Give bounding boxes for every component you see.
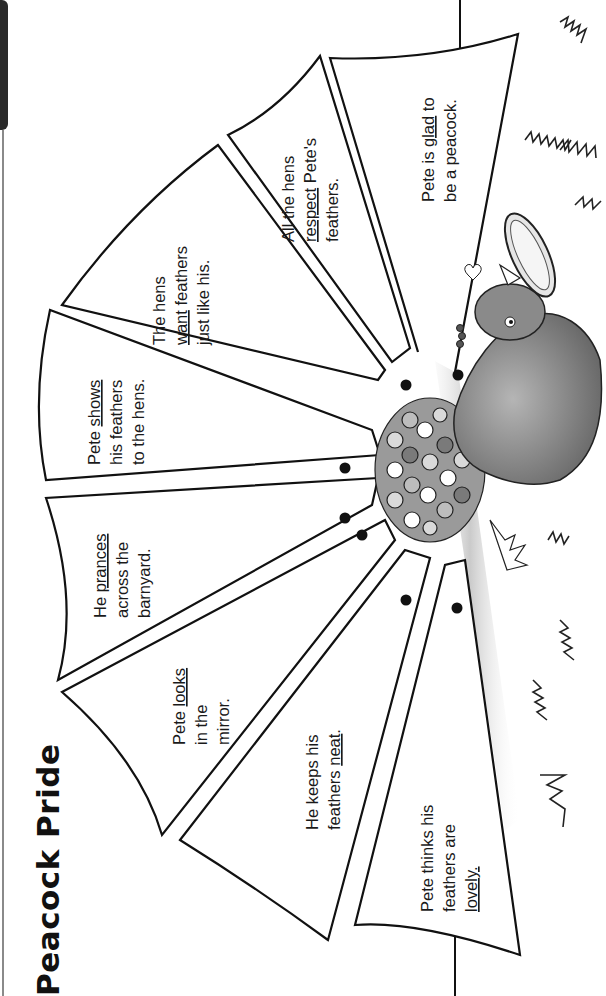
svg-text:lovely.: lovely. <box>462 866 480 912</box>
svg-text:feathers.: feathers. <box>323 178 341 242</box>
svg-text:just like his.: just like his. <box>194 260 212 346</box>
worksheet-page: Peacock Pride <box>0 0 606 996</box>
grass-tuft-2 <box>525 132 571 150</box>
svg-text:across the: across the <box>113 542 131 618</box>
svg-text:He keeps his: He keeps his <box>303 735 321 830</box>
svg-text:feathers are: feathers are <box>440 824 458 912</box>
svg-text:feathers neat.: feathers neat. <box>325 729 343 830</box>
grass-tuft-1 <box>560 17 586 43</box>
dot-5 <box>357 530 368 541</box>
svg-text:mirror.: mirror. <box>214 698 232 745</box>
peacock-body <box>454 314 602 485</box>
dot-6 <box>401 595 412 606</box>
grass-tuft-8 <box>540 775 565 827</box>
feather-fan-diagram: Pete thinks his feathers are lovely. He … <box>0 0 606 996</box>
grass-tuft-4 <box>575 197 601 209</box>
dot-4 <box>340 513 351 524</box>
dot-3 <box>340 463 351 474</box>
svg-text:his feathers: his feathers <box>107 380 125 465</box>
svg-text:Pete shows: Pete shows <box>85 380 103 465</box>
svg-text:want feathers: want feathers <box>172 246 190 346</box>
feather-text-5: Pete shows his feathers to the hens. <box>85 379 147 465</box>
grass-tuft-6 <box>560 620 574 660</box>
svg-text:respect Pete's: respect Pete's <box>301 138 319 242</box>
dot-1 <box>453 370 464 381</box>
dot-7 <box>452 603 463 614</box>
svg-text:Pete thinks his: Pete thinks his <box>418 805 436 912</box>
svg-text:to the hens.: to the hens. <box>129 379 147 465</box>
grass-tuft-7 <box>533 680 547 720</box>
peacock-foot <box>490 520 527 570</box>
svg-text:barnyard.: barnyard. <box>135 548 153 618</box>
svg-text:Pete is glad to: Pete is glad to <box>419 97 437 202</box>
grass-tuft-5 <box>548 532 569 544</box>
svg-text:He prances: He prances <box>91 534 109 618</box>
svg-text:All the hens: All the hens <box>279 156 297 242</box>
svg-text:Pete looks: Pete looks <box>170 668 188 745</box>
svg-text:be a peacock.: be a peacock. <box>441 99 459 202</box>
svg-text:The hens: The hens <box>150 276 168 345</box>
dot-2 <box>401 380 412 391</box>
svg-text:in the: in the <box>192 705 210 745</box>
